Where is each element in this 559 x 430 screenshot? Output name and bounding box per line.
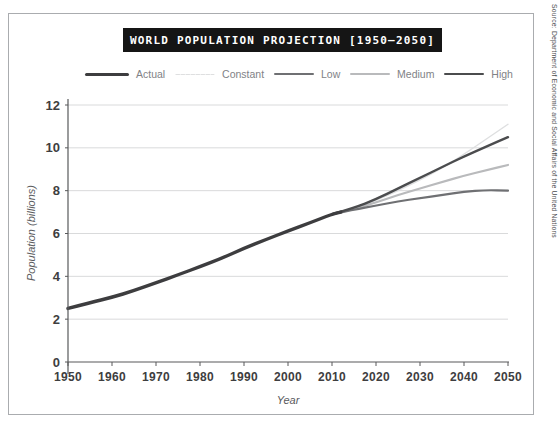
axes: 1950196019701980199020002010202020302040… xyxy=(46,98,522,385)
plot-area: 1950196019701980199020002010202020302040… xyxy=(0,0,559,430)
legend-label: Low xyxy=(321,68,340,80)
legend: Actual Constant Low Medium High xyxy=(85,66,513,82)
y-tick-label: 12 xyxy=(46,98,60,113)
x-tick-label: 1960 xyxy=(98,370,126,384)
legend-swatch-high xyxy=(444,73,484,75)
y-tick-label: 0 xyxy=(53,355,60,370)
x-tick-label: 1970 xyxy=(142,370,170,384)
x-tick-label: 1950 xyxy=(54,370,82,384)
source-note: Source: Department of Economic and Socia… xyxy=(551,4,558,238)
y-tick-label: 4 xyxy=(53,269,61,284)
legend-label: Actual xyxy=(136,68,165,80)
legend-item-high: High xyxy=(444,68,513,80)
x-tick-label: 2030 xyxy=(406,370,434,384)
series-line-low xyxy=(332,190,508,214)
chart-title-box: WORLD POPULATION PROJECTION [1950–2050] xyxy=(123,28,442,52)
y-tick-label: 2 xyxy=(53,312,60,327)
legend-item-actual: Actual xyxy=(85,68,165,80)
y-tick-label: 6 xyxy=(53,226,60,241)
y-tick-label: 10 xyxy=(46,140,60,155)
gridlines xyxy=(68,105,508,319)
x-tick-label: 2010 xyxy=(318,370,346,384)
legend-swatch-low xyxy=(274,73,314,75)
x-tick-label: 2050 xyxy=(494,370,522,384)
legend-label: High xyxy=(491,68,513,80)
legend-swatch-constant xyxy=(175,74,215,75)
legend-label: Constant xyxy=(222,68,264,80)
series-line-actual xyxy=(68,212,341,308)
series-line-high xyxy=(332,137,508,214)
legend-item-medium: Medium xyxy=(350,68,434,80)
y-tick-label: 8 xyxy=(53,183,60,198)
x-axis-title: Year xyxy=(277,394,300,406)
chart-title: WORLD POPULATION PROJECTION [1950–2050] xyxy=(130,34,435,47)
x-tick-label: 1990 xyxy=(230,370,258,384)
x-tick-label: 2040 xyxy=(450,370,478,384)
x-tick-label: 1980 xyxy=(186,370,214,384)
legend-label: Medium xyxy=(397,68,434,80)
legend-item-constant: Constant xyxy=(175,68,264,80)
legend-swatch-medium xyxy=(350,73,390,75)
y-axis-title: Population (billions) xyxy=(25,185,37,281)
x-tick-label: 2020 xyxy=(362,370,390,384)
x-tick-label: 2000 xyxy=(274,370,302,384)
series-line-constant xyxy=(332,124,508,214)
legend-item-low: Low xyxy=(274,68,340,80)
legend-swatch-actual xyxy=(85,73,129,76)
